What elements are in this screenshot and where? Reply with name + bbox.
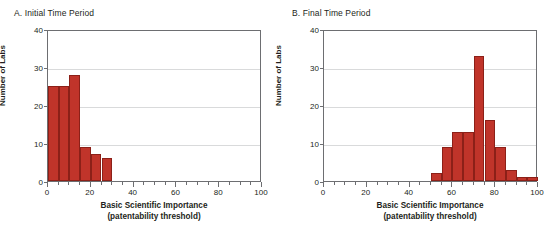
histogram-bar — [474, 56, 485, 181]
panel-b-xtick-60: 60 — [447, 188, 456, 197]
histogram-bar — [463, 132, 474, 181]
panel-a-x-axis-label-line1: Basic Scientific Importance — [101, 201, 208, 210]
histogram-bar — [80, 147, 91, 181]
panel-a-xtick-60: 60 — [171, 188, 180, 197]
panel-a: A. Initial Time Period Number of Labs 0 … — [0, 0, 278, 234]
panel-a-ytick-20: 20 — [34, 102, 43, 111]
panel-a-x-axis-label-line2: (patentability threshold) — [47, 211, 261, 222]
histogram-bar — [442, 147, 453, 181]
panel-a-ytick-40: 40 — [34, 26, 43, 35]
histogram-bar — [485, 120, 496, 181]
panel-a-y-axis-label: Number of Labs — [0, 45, 7, 106]
panel-a-xtick-80: 80 — [214, 188, 223, 197]
panel-b-xtick-20: 20 — [361, 188, 370, 197]
histogram-bar — [102, 158, 113, 181]
panel-b-xtick-0: 0 — [321, 188, 325, 197]
histogram-bar — [48, 86, 59, 181]
figure-two-panel-histograms: A. Initial Time Period Number of Labs 0 … — [0, 0, 557, 234]
panel-b-xtick-100: 100 — [530, 188, 543, 197]
panel-a-xtick-20: 20 — [85, 188, 94, 197]
panel-b-title: B. Final Time Period — [292, 8, 371, 18]
panel-a-y-ticks: 0 10 20 30 40 — [20, 30, 43, 182]
histogram-bar — [59, 86, 70, 181]
panel-b-xtick-40: 40 — [404, 188, 413, 197]
histogram-bar — [431, 173, 442, 181]
panel-b-plot-area — [323, 30, 537, 182]
panel-b-x-axis-label-line2: (patentability threshold) — [323, 211, 537, 222]
histogram-bar — [452, 132, 463, 181]
panel-b-y-axis-label: Number of Labs — [274, 45, 283, 106]
panel-b-ytick-0: 0 — [315, 178, 319, 187]
histogram-bar — [527, 177, 538, 181]
panel-a-title: A. Initial Time Period — [14, 8, 94, 18]
panel-a-xtick-0: 0 — [45, 188, 49, 197]
panel-a-x-axis-label: Basic Scientific Importance (patentabili… — [47, 200, 261, 222]
panel-b-bars — [324, 31, 536, 181]
panel-b-ytick-30: 30 — [310, 64, 319, 73]
panel-a-plot-area — [47, 30, 261, 182]
panel-a-ytick-30: 30 — [34, 64, 43, 73]
panel-b-ytick-10: 10 — [310, 140, 319, 149]
histogram-bar — [495, 147, 506, 181]
panel-b-ytick-40: 40 — [310, 26, 319, 35]
histogram-bar — [69, 75, 80, 181]
histogram-bar — [517, 177, 528, 181]
panel-a-ytick-10: 10 — [34, 140, 43, 149]
histogram-bar — [506, 170, 517, 181]
histogram-bar — [91, 154, 102, 181]
panel-b-xtick-80: 80 — [490, 188, 499, 197]
panel-a-ytick-0: 0 — [39, 178, 43, 187]
panel-a-xtick-100: 100 — [254, 188, 267, 197]
panel-b-ytick-20: 20 — [310, 102, 319, 111]
panel-b: B. Final Time Period Number of Labs 0 10… — [278, 0, 556, 234]
panel-a-bars — [48, 31, 260, 181]
panel-b-x-axis-label-line1: Basic Scientific Importance — [377, 201, 484, 210]
panel-a-xtick-40: 40 — [128, 188, 137, 197]
panel-b-y-ticks: 0 10 20 30 40 — [296, 30, 319, 182]
panel-b-x-axis-label: Basic Scientific Importance (patentabili… — [323, 200, 537, 222]
